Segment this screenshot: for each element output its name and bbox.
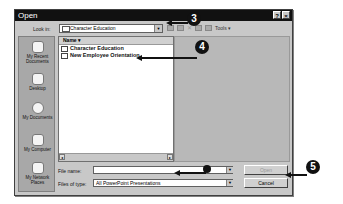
desktop-icon [32,73,44,85]
look-in-label: Look in: [33,26,51,32]
look-in-value: Character Education [70,25,116,31]
look-in-dropdown[interactable]: Character Education ▼ [59,24,163,33]
folder-icon [61,46,68,52]
file-list[interactable]: Name ▾ Character Education New Employee … [58,36,174,162]
file-name-label: File name: [58,168,81,174]
preview-pane [174,36,290,162]
chevron-down-icon[interactable]: ▼ [154,25,162,32]
callout-3-arrow [170,22,188,24]
presentation-icon [61,53,68,59]
place-my-computer[interactable]: My Computer [19,134,56,152]
callout-5-arrowhead [285,172,291,178]
callout-4: 4 [195,40,209,54]
callout-5-arrow [289,174,307,176]
title-bar: Open ? × [15,10,292,21]
file-name-input[interactable] [93,166,233,174]
toolbar: ✕ Tools ▾ [167,24,231,31]
callout-3: 3 [187,12,201,26]
cancel-button[interactable]: Cancel [244,178,288,188]
horizontal-scrollbar[interactable]: ◂ ▸ [59,153,173,161]
filename-arrow [178,172,206,174]
dialog-title: Open [18,11,38,20]
open-dialog: Open ? × Look in: Character Education ▼ … [14,9,293,196]
filename-arrowhead [174,170,180,176]
folder-icon [62,26,70,32]
tools-menu[interactable]: Tools ▾ [215,25,231,31]
close-button[interactable]: × [282,11,290,19]
place-my-documents[interactable]: My Documents [19,102,56,120]
files-of-type-select[interactable]: All PowerPoint Presentations [93,179,233,187]
column-header-name[interactable]: Name ▾ [59,37,173,45]
place-desktop[interactable]: Desktop [19,73,56,91]
scroll-left-icon[interactable]: ◂ [59,154,65,160]
help-button[interactable]: ? [273,11,281,19]
file-name-dropdown-icon[interactable]: ▼ [226,167,233,173]
place-my-recent-documents[interactable]: My Recent Documents [19,41,56,64]
network-icon [32,162,44,174]
list-item[interactable]: Character Education [59,45,173,52]
callout-4-arrowhead [136,55,142,61]
recent-documents-icon [32,41,44,53]
computer-icon [32,134,44,146]
places-bar: My Recent Documents Desktop My Documents… [18,36,55,192]
place-my-network-places[interactable]: My Network Places [19,162,56,185]
files-of-type-label: Files of type: [58,181,86,187]
up-folder-icon[interactable] [177,25,184,31]
files-of-type-dropdown-icon[interactable]: ▼ [226,180,233,186]
callout-3-arrowhead [166,20,172,26]
views-icon[interactable] [205,25,212,31]
open-button[interactable]: Open [244,165,288,175]
scroll-right-icon[interactable]: ▸ [167,154,173,160]
callout-4-arrow [140,57,197,59]
callout-5: 5 [306,160,320,174]
my-documents-icon [32,102,44,114]
